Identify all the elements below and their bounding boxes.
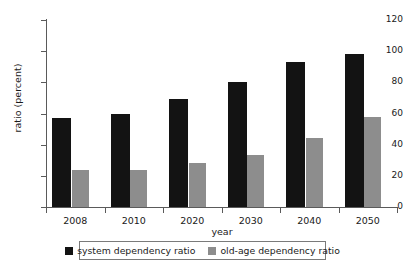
bar-chart: 020406080100120 200820102020203020402050… bbox=[0, 0, 403, 266]
x-axis-title: year bbox=[46, 227, 398, 237]
x-tick-label-2040: 2040 bbox=[280, 215, 339, 226]
bar-2050-series1 bbox=[364, 117, 381, 207]
bar-2020-series1 bbox=[189, 163, 206, 207]
chart-legend: system dependency ratioold-age dependenc… bbox=[79, 241, 326, 260]
bar-2010-series0 bbox=[111, 114, 130, 208]
legend-item-1: old-age dependency ratio bbox=[208, 246, 339, 256]
bar-2008-series0 bbox=[52, 118, 71, 207]
legend-swatch-icon-1 bbox=[208, 247, 216, 255]
legend-item-0: system dependency ratio bbox=[65, 246, 195, 256]
clipped-caption-fragment bbox=[2, 0, 62, 3]
x-tick-label-2020: 2020 bbox=[163, 215, 222, 226]
x-tick-label-2030: 2030 bbox=[222, 215, 281, 226]
x-tick-2050 bbox=[397, 208, 398, 213]
x-tick-2008 bbox=[105, 208, 106, 213]
legend-label-0: system dependency ratio bbox=[77, 246, 195, 256]
x-tick-label-2008: 2008 bbox=[46, 215, 105, 226]
x-tick-label-2050: 2050 bbox=[339, 215, 398, 226]
bar-2008-series1 bbox=[72, 170, 89, 207]
x-tick-origin bbox=[46, 208, 47, 213]
x-tick-label-2010: 2010 bbox=[105, 215, 164, 226]
x-tick-2010 bbox=[163, 208, 164, 213]
bar-2030-series1 bbox=[247, 155, 264, 207]
y-axis-title: ratio (percent) bbox=[13, 43, 23, 153]
bar-2030-series0 bbox=[228, 82, 247, 207]
x-tick-2030 bbox=[280, 208, 281, 213]
bar-2040-series0 bbox=[286, 62, 305, 207]
bar-2040-series1 bbox=[306, 138, 323, 207]
legend-label-1: old-age dependency ratio bbox=[220, 246, 339, 256]
x-tick-2020 bbox=[222, 208, 223, 213]
bar-2010-series1 bbox=[130, 170, 147, 207]
bar-2020-series0 bbox=[169, 99, 188, 207]
x-tick-2040 bbox=[339, 208, 340, 213]
bar-2050-series0 bbox=[345, 54, 364, 207]
plot-area bbox=[46, 20, 397, 207]
legend-swatch-icon-0 bbox=[65, 247, 73, 255]
